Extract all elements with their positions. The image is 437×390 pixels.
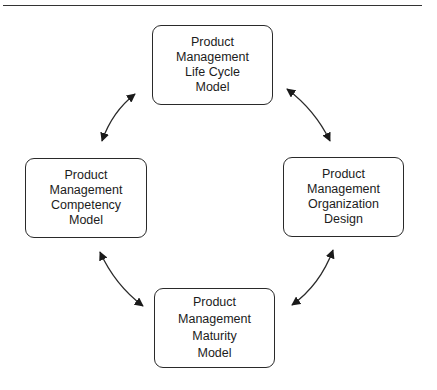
node-line: Life Cycle — [185, 65, 240, 80]
arrow-bottom-left — [100, 252, 143, 306]
arrow-left-top — [102, 94, 135, 141]
node-line: Competency — [51, 198, 121, 213]
node-maturity-model: Product Management Maturity Model — [154, 288, 275, 368]
node-line: Product — [322, 167, 365, 182]
node-life-cycle-model: Product Management Life Cycle Model — [152, 25, 273, 105]
arrow-top-right — [287, 89, 330, 141]
node-line: Product — [64, 168, 107, 183]
node-line: Management — [176, 50, 249, 65]
node-line: Management — [50, 183, 123, 198]
node-line: Product — [191, 35, 234, 50]
node-line: Management — [178, 311, 251, 328]
node-line: Model — [197, 345, 231, 362]
arrow-right-bottom — [292, 250, 333, 305]
node-line: Organization — [308, 197, 379, 212]
node-line: Model — [195, 80, 229, 95]
node-line: Management — [307, 182, 380, 197]
node-line: Design — [324, 212, 363, 227]
node-line: Model — [69, 213, 103, 228]
node-organization-design: Product Management Organization Design — [283, 157, 404, 237]
node-line: Maturity — [192, 328, 236, 345]
node-line: Product — [193, 294, 236, 311]
node-competency-model: Product Management Competency Model — [25, 158, 147, 238]
